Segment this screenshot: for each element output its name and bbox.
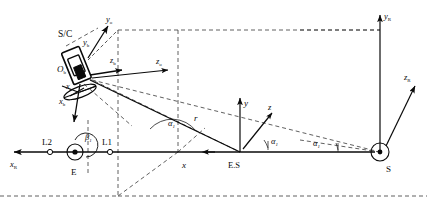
earth-sun-label: E.S	[228, 160, 240, 170]
alpha-angle-sun-arc	[336, 143, 338, 152]
es-y-label: y	[243, 98, 248, 108]
alpha-es-label: α1	[271, 136, 278, 147]
es-z-label: z	[267, 102, 272, 112]
earth-center-dot	[72, 149, 77, 154]
z-orbit-axis-line	[92, 70, 168, 78]
z-rot-label: zR	[403, 72, 411, 83]
z-orbit-label: zo	[155, 56, 162, 67]
dashed-alpha-ray	[178, 128, 205, 152]
y-orbit-label: yo	[105, 14, 113, 25]
y-body-label: yb	[82, 37, 90, 48]
earth-label: E	[71, 167, 77, 177]
z-rot-axis-line	[386, 86, 415, 146]
dashed-es-to-corner	[118, 152, 178, 196]
alpha-angle-es-arc	[264, 140, 268, 150]
y-body-axis-line	[88, 26, 108, 58]
y-rot-label: yR	[383, 11, 392, 22]
orbital-geometry-diagram: S/C Ob yo yb zb zo xb xo xR yR zR E	[0, 0, 427, 216]
alpha-sun-label: α1	[313, 138, 320, 149]
es-x-label: x	[181, 160, 186, 170]
x-rot-label: xR	[9, 159, 18, 170]
l2-point-marker	[47, 149, 52, 154]
spacecraft-label: S/C	[58, 29, 72, 39]
r-vector-line	[90, 80, 240, 152]
x-body-axis-line	[74, 84, 80, 122]
alpha-es-arc-path	[264, 140, 268, 148]
orbit-frame-axes	[92, 70, 168, 78]
sun-label: S	[386, 164, 391, 174]
x-orbit-label: xo	[65, 82, 73, 92]
figure-container: S/C Ob yo yb zb zo xb xo xR yR zR E	[0, 0, 427, 216]
dashed-sc-to-sun	[92, 80, 380, 152]
body-origin-label: Ob	[57, 64, 67, 75]
dashed-sc-lower-ray	[84, 84, 132, 126]
radius-vector	[90, 80, 240, 152]
z-body-label: zb	[109, 56, 116, 66]
z-body-axis-line	[90, 70, 122, 75]
sun-frame-axes	[380, 15, 415, 152]
l1-point-marker	[107, 149, 112, 154]
lagrange-1-label: L1	[102, 137, 112, 147]
radius-label: r	[194, 113, 198, 123]
lagrange-2-label: L2	[42, 137, 52, 147]
